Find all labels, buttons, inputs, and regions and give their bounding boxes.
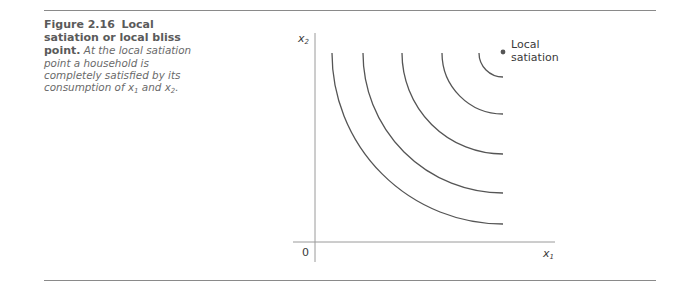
satiation-diagram: Local satiation x2 0 x1 [0,0,690,288]
curve-3 [402,53,503,154]
curve-2 [442,53,503,114]
y-axis-label: x2 [297,32,310,46]
indifference-curves [332,53,503,224]
origin-label: 0 [302,246,309,259]
bottom-rule [44,280,656,281]
annotation-line1: Local [511,38,540,51]
x-axis-label: x1 [542,247,554,261]
curve-5 [332,53,503,224]
curve-1 [479,53,503,77]
satiation-point-dot [501,50,506,55]
curve-4 [363,53,503,193]
annotation-line2: satiation [511,51,559,64]
